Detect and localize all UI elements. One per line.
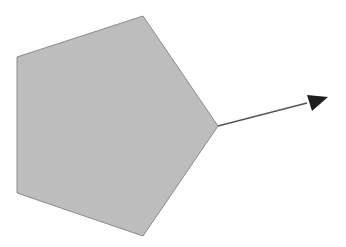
arrow-head-icon [307,95,328,111]
arrow-shaft [218,103,307,126]
diagram-canvas [0,0,346,247]
pentagon-shape [17,16,218,236]
diagram-svg [0,0,346,247]
